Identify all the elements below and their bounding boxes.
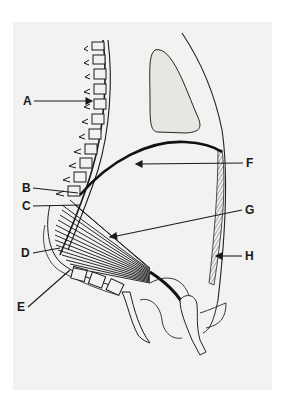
anatomy-drawing [0, 0, 285, 412]
label-c: C [22, 200, 31, 212]
femur [180, 296, 206, 355]
label-a: A [23, 95, 32, 107]
label-h: H [245, 250, 254, 262]
organ-outline [150, 50, 200, 133]
label-d: D [21, 247, 30, 259]
label-e: E [17, 301, 25, 313]
vertebral-column [56, 40, 110, 255]
label-f: F [246, 157, 253, 169]
diaphragm [80, 142, 222, 195]
label-g: G [245, 204, 254, 216]
label-b: B [22, 182, 31, 194]
